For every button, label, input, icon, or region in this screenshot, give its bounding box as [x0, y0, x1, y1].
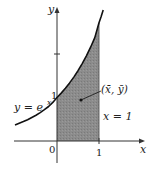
- centroid-label: (x̄, ȳ): [101, 83, 128, 95]
- y-axis-label: y: [47, 3, 55, 16]
- origin-label: 0: [49, 144, 55, 155]
- boundary-label: x = 1: [103, 110, 132, 123]
- y-tick-label: 1: [51, 90, 57, 101]
- y-axis-arrow-icon: [55, 7, 60, 13]
- x-tick-label: 1: [96, 147, 102, 158]
- curve-label: y = e: [13, 101, 43, 114]
- centroid-point: [79, 98, 82, 101]
- curve-label-exponent: x: [47, 98, 52, 107]
- x-axis-label: x: [140, 143, 147, 156]
- figure: y x 0 1 1 y = e x (x̄, ȳ) x = 1: [0, 0, 152, 173]
- graph-svg: y x 0 1 1 y = e x (x̄, ȳ) x = 1: [0, 0, 152, 173]
